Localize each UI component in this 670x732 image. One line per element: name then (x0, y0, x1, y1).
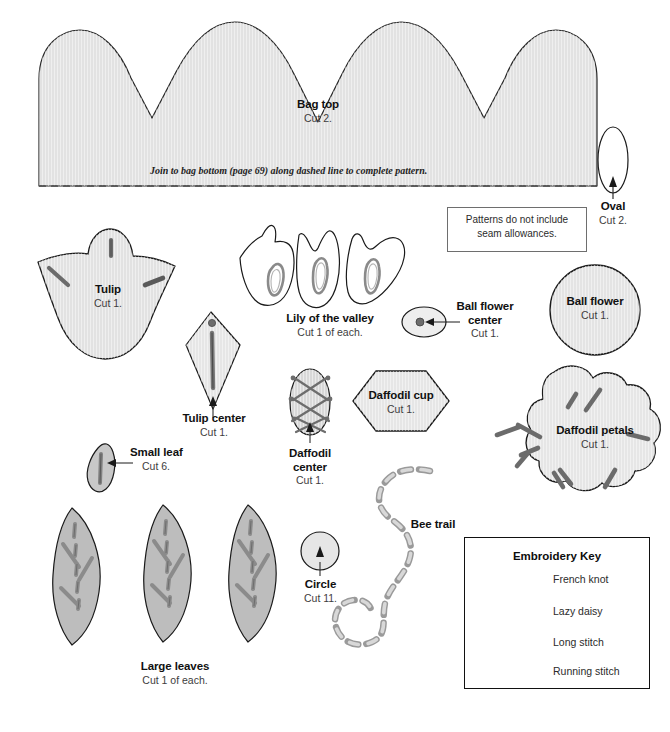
label-circle-title: Circle (288, 578, 353, 592)
piece-large-leaves (53, 505, 276, 645)
piece-daffodil-center (289, 369, 333, 443)
key-label-french-knot: French knot (553, 573, 608, 585)
seam-allowance-note: Patterns do not include seam allowances. (447, 207, 587, 252)
join-instruction-text: Join to bag bottom (page 69) along dashe… (150, 165, 427, 176)
seam-allowance-line1: Patterns do not include (466, 214, 568, 225)
embroidery-key-title: Embroidery Key (465, 550, 649, 562)
label-daffodil-cup-cut: Cut 1. (356, 403, 446, 415)
label-daffodil-cup: Daffodil cup Cut 1. (356, 389, 446, 415)
label-ball-flower-center-title1: Ball flower (437, 300, 533, 314)
label-daffodil-center-title1: Daffodil (270, 447, 350, 461)
piece-bee-trail (335, 469, 430, 644)
label-lily-cut: Cut 1 of each. (265, 326, 395, 338)
label-tulip-center-cut: Cut 1. (169, 426, 259, 438)
label-daffodil-petals-cut: Cut 1. (535, 438, 655, 450)
label-circle: Circle Cut 11. (288, 578, 353, 604)
label-tulip-title: Tulip (68, 283, 148, 297)
label-daffodil-petals: Daffodil petals Cut 1. (535, 424, 655, 450)
label-ball-flower-center: Ball flower center Cut 1. (437, 300, 533, 340)
piece-oval (598, 127, 628, 199)
label-bag-top-title: Bag top (263, 98, 373, 112)
label-tulip-cut: Cut 1. (68, 297, 148, 309)
piece-small-leaf (87, 444, 133, 492)
label-ball-flower-cut: Cut 1. (550, 309, 640, 321)
label-bee-trail: Bee trail (393, 518, 473, 532)
label-daffodil-cup-title: Daffodil cup (356, 389, 446, 403)
label-bee-trail-title: Bee trail (393, 518, 473, 532)
label-ball-flower: Ball flower Cut 1. (550, 295, 640, 321)
label-small-leaf-cut: Cut 6. (130, 460, 220, 472)
piece-lily-of-the-valley (240, 225, 405, 307)
label-large-leaves-title: Large leaves (110, 660, 240, 674)
label-daffodil-center: Daffodil center Cut 1. (270, 447, 350, 487)
label-bag-top: Bag top Cut 2. (263, 98, 373, 124)
pattern-sheet: Bag top Cut 2. Join to bag bottom (page … (0, 0, 670, 732)
label-small-leaf-title: Small leaf (130, 446, 220, 460)
seam-allowance-line2: seam allowances. (477, 228, 556, 239)
label-bag-top-cut: Cut 2. (263, 112, 373, 124)
key-label-long-stitch: Long stitch (553, 636, 604, 648)
label-large-leaves-cut: Cut 1 of each. (110, 674, 240, 686)
label-lily-title: Lily of the valley (265, 312, 395, 326)
label-ball-flower-title: Ball flower (550, 295, 640, 309)
label-tulip: Tulip Cut 1. (68, 283, 148, 309)
label-circle-cut: Cut 11. (288, 592, 353, 604)
key-label-lazy-daisy: Lazy daisy (553, 605, 603, 617)
label-daffodil-center-cut: Cut 1. (270, 474, 350, 486)
label-small-leaf: Small leaf Cut 6. (130, 446, 220, 472)
label-lily-of-the-valley: Lily of the valley Cut 1 of each. (265, 312, 395, 338)
key-label-running-stitch: Running stitch (553, 665, 620, 677)
label-daffodil-petals-title: Daffodil petals (535, 424, 655, 438)
label-large-leaves: Large leaves Cut 1 of each. (110, 660, 240, 686)
label-ball-flower-center-cut: Cut 1. (437, 327, 533, 339)
label-tulip-center: Tulip center Cut 1. (169, 412, 259, 438)
label-tulip-center-title: Tulip center (169, 412, 259, 426)
label-daffodil-center-title2: center (270, 461, 350, 475)
piece-circle (301, 532, 339, 576)
piece-tulip-center (186, 312, 240, 418)
label-ball-flower-center-title2: center (437, 314, 533, 328)
